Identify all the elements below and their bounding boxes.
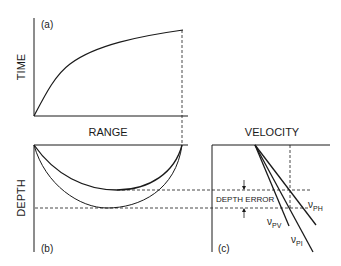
- velocity-line-pv: [255, 145, 289, 226]
- depth-label: DEPTH: [15, 179, 27, 216]
- label-pv: νPV: [267, 216, 282, 229]
- panel-a: (a) TIME RANGE: [15, 18, 188, 145]
- arrowhead-up-icon: [242, 208, 246, 212]
- diagram: (a) TIME RANGE DEPTH (b) DEPTH ERROR VEL…: [0, 0, 341, 266]
- range-label: RANGE: [88, 126, 127, 138]
- depth-error-label: DEPTH ERROR: [216, 195, 274, 204]
- panel-a-tag: (a): [41, 19, 53, 30]
- label-ph: νPH: [308, 199, 323, 212]
- travel-time-curve: [34, 30, 183, 116]
- label-pi: νPI: [291, 234, 303, 247]
- panel-c-tag: (c): [218, 243, 230, 254]
- velocity-label: VELOCITY: [245, 126, 300, 138]
- ray-path-upper: [34, 145, 182, 190]
- time-label: TIME: [15, 54, 27, 80]
- panel-b-tag: (b): [41, 243, 53, 254]
- velocity-line-ph: [255, 145, 316, 225]
- arrowhead-down-icon: [242, 186, 246, 190]
